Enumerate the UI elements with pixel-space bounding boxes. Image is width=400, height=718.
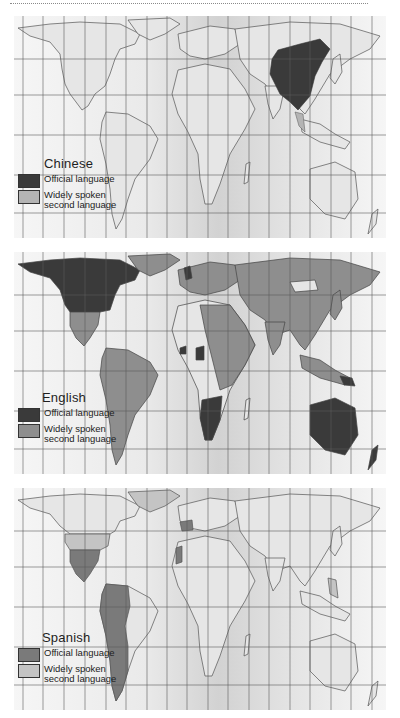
legend-item-official: Official language [18,648,116,662]
legend-spanish: Spanish Official language Widely spokens… [18,630,116,686]
legend-title: English [42,390,116,405]
legend-swatch-official [18,408,40,422]
legend-item-second-language: Widely spokensecond language [18,190,116,210]
map-panel-english: English Official language Widely spokens… [10,250,386,476]
legend-swatch-second-language [18,424,40,438]
legend-chinese: Chinese Official language Widely spokens… [18,156,116,212]
top-dotted-rule [10,3,368,4]
legend-item-second-language: Widely spokensecond language [18,664,116,684]
legend-item-second-language: Widely spokensecond language [18,424,116,444]
legend-swatch-official [18,174,40,188]
map-panel-chinese: Chinese Official language Widely spokens… [10,14,386,240]
legend-swatch-second-language [18,664,40,678]
legend-item-official: Official language [18,408,116,422]
legend-swatch-official [18,648,40,662]
legend-title: Spanish [42,630,116,645]
legend-title: Chinese [44,156,116,171]
legend-english: English Official language Widely spokens… [18,390,116,446]
legend-item-official: Official language [18,174,116,188]
map-panel-spanish: Spanish Official language Widely spokens… [10,486,386,712]
legend-swatch-second-language [18,190,40,204]
